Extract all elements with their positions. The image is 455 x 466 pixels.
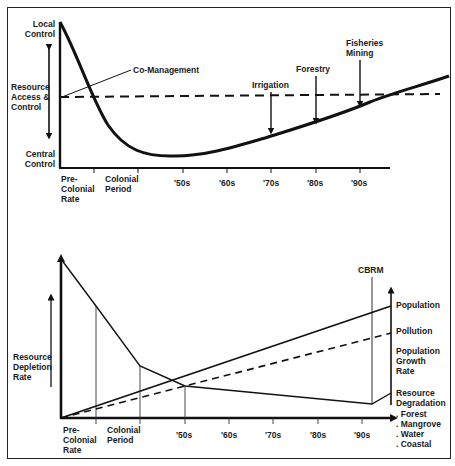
bottom-x-label-50s: '50s bbox=[176, 430, 192, 440]
degradation-item-forest: . Forest bbox=[396, 409, 427, 419]
top-x-label-50s: '50s bbox=[174, 178, 190, 188]
top-x-label-70s: '70s bbox=[263, 178, 279, 188]
top-x-label-90s: '90s bbox=[351, 178, 367, 188]
co-management-leader bbox=[62, 70, 131, 97]
bottom-x-label-60s: '60s bbox=[221, 430, 237, 440]
degradation-item-mangrove: . Mangrove bbox=[396, 419, 441, 429]
top-chart bbox=[49, 22, 449, 173]
bottom-x-label-precolonial: Pre- Colonial Rate bbox=[63, 425, 97, 455]
period-dividers bbox=[96, 306, 362, 424]
fisheries-mining-label: Fisheries Mining bbox=[346, 38, 383, 58]
population-label: Population bbox=[396, 300, 440, 310]
diagram-graphics bbox=[0, 0, 455, 466]
forestry-label: Forestry bbox=[296, 64, 330, 74]
local-control-label: Local Control bbox=[8, 19, 55, 39]
bottom-chart bbox=[51, 258, 394, 424]
bottom-x-label-80s: '80s bbox=[310, 430, 326, 440]
central-control-label: Central Control bbox=[8, 149, 55, 169]
pollution-label: Pollution bbox=[396, 326, 432, 336]
co-management-label: Co-Management bbox=[133, 65, 199, 75]
resource-degradation-label: Resource Degradation bbox=[396, 388, 446, 408]
top-x-label-colonial: Colonial Period bbox=[105, 174, 139, 194]
top-x-label-80s: '80s bbox=[307, 178, 323, 188]
depletion-rate-label: Resource Depletion Rate bbox=[13, 352, 52, 382]
top-x-label-precolonial: Pre- Colonial Rate bbox=[61, 174, 95, 204]
cbrm-label: CBRM bbox=[358, 265, 384, 275]
degradation-item-coastal: . Coastal bbox=[396, 439, 431, 449]
bottom-x-label-70s: '70s bbox=[265, 430, 281, 440]
degradation-item-water: . Water bbox=[396, 429, 424, 439]
degradation-line bbox=[61, 259, 391, 404]
pollution-line bbox=[61, 333, 391, 418]
top-x-label-60s: '60s bbox=[219, 178, 235, 188]
population-growth-label: Population Growth Rate bbox=[396, 346, 440, 376]
resource-access-label: Resource Access & Control bbox=[11, 82, 50, 112]
irrigation-label: Irrigation bbox=[252, 80, 289, 90]
bottom-x-label-colonial: Colonial Period bbox=[107, 425, 141, 445]
bottom-x-label-90s: '90s bbox=[354, 430, 370, 440]
